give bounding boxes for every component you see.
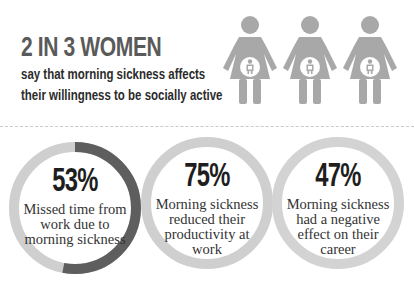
dashed-divider bbox=[0, 126, 414, 127]
stat-value: 75% bbox=[159, 156, 255, 194]
stat-description: Missed time from work due to morning sic… bbox=[22, 202, 128, 247]
stat-value: 47% bbox=[290, 156, 386, 194]
stat-card-1: 53% Missed time from work due to morning… bbox=[8, 141, 142, 275]
stat-card-3: 47% Morning sickness had a negative effe… bbox=[271, 136, 405, 270]
subline-1: say that morning sickness affects bbox=[21, 65, 205, 83]
pregnant-woman-icon bbox=[283, 16, 337, 104]
headline: 2 IN 3 WOMEN bbox=[21, 32, 161, 63]
women-pictogram bbox=[218, 16, 408, 108]
pregnant-woman-icon bbox=[343, 16, 397, 104]
subline-2: their willingness to be socially active bbox=[21, 86, 222, 104]
stat-description: Morning sickness had a negative effect o… bbox=[285, 197, 391, 257]
stat-card-2: 75% Morning sickness reduced their produ… bbox=[140, 136, 274, 270]
stat-description: Morning sickness reduced their productiv… bbox=[154, 197, 260, 257]
pregnant-woman-icon bbox=[223, 16, 277, 104]
stat-value: 53% bbox=[27, 161, 123, 199]
